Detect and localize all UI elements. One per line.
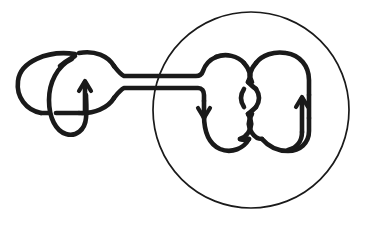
clasp-left-lobe-bottom-arc <box>204 115 249 151</box>
companion-upper-right-arc <box>79 52 114 66</box>
knot-diagram-svg <box>0 0 366 226</box>
clasp-strand-a2 <box>241 89 244 107</box>
clasp-right-lobe-top-arc <box>256 52 309 95</box>
clasp-lower-left-join <box>240 139 249 140</box>
companion-vertical-loop <box>49 59 86 135</box>
clasp-left-lobe-top-arc <box>216 55 244 63</box>
clasp-strand-b2 <box>256 89 259 107</box>
clasp-strand-b3 <box>249 114 262 139</box>
clasp-crossing-over-2 <box>248 107 256 114</box>
clasp-crossing-over-1 <box>248 82 256 89</box>
knot-diagram-canvas: Knot diagram with satellite companion an… <box>0 0 366 226</box>
clasp-strand-b1 <box>250 63 256 82</box>
band-bottom-strand <box>114 88 204 101</box>
band-top-strand <box>114 57 216 76</box>
